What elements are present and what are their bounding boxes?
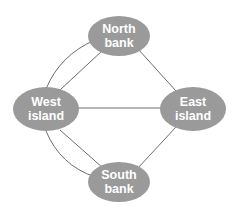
node-label-line2: island <box>28 109 64 123</box>
node-label-line1: South <box>101 168 136 182</box>
node-label-line1: East <box>180 95 207 109</box>
node-west-island: West island <box>13 87 79 131</box>
edge-west-north-straight <box>60 50 103 90</box>
node-south-bank: South bank <box>88 162 150 202</box>
node-label-line1: West <box>31 95 61 109</box>
node-label-line2: bank <box>104 182 133 196</box>
node-north-bank: North bank <box>88 16 150 56</box>
edge-north-east <box>138 49 176 91</box>
bridges-graph: North bank West island East island South… <box>0 0 236 208</box>
edge-south-east <box>137 127 176 169</box>
node-label-line1: North <box>102 22 135 36</box>
edge-west-south-straight <box>60 130 103 168</box>
node-label-line2: island <box>175 109 211 123</box>
node-label-line2: bank <box>104 36 133 50</box>
node-east-island: East island <box>160 87 226 131</box>
